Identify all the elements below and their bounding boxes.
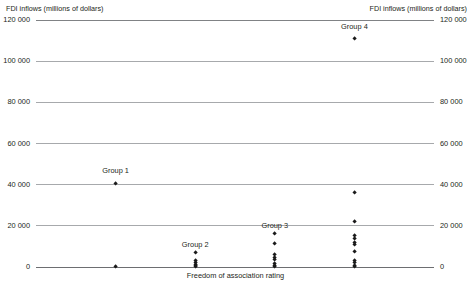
- gridline: [36, 61, 434, 62]
- y-tick-label-right: 40 000: [440, 181, 463, 189]
- y-tick-label-right: 100 000: [440, 57, 467, 65]
- y-tick-label-left: 0: [26, 263, 30, 271]
- x-axis-title: Freedom of association rating: [0, 271, 471, 280]
- data-point: [352, 243, 357, 248]
- gridline: [36, 143, 434, 144]
- data-point: [273, 242, 278, 247]
- y-tick-label-right: 0: [440, 263, 444, 271]
- series-label-1: Group 1: [102, 167, 129, 175]
- y-tick-label-right: 20 000: [440, 222, 463, 230]
- data-point: [273, 265, 278, 270]
- gridline: [36, 184, 434, 185]
- plot-area: 0020 00020 00040 00040 00060 00060 00080…: [36, 20, 434, 267]
- y-tick-label-left: 20 000: [7, 222, 30, 230]
- y-tick-label-left: 40 000: [7, 181, 30, 189]
- y-tick-label-left: 60 000: [7, 140, 30, 148]
- y-tick-label-right: 120 000: [440, 16, 467, 24]
- data-point: [352, 219, 357, 224]
- data-point: [352, 191, 357, 196]
- y-axis-title-right: FDI inflows (millions of dollars): [370, 4, 467, 13]
- series-label-2: Group 2: [182, 241, 209, 249]
- data-point: [193, 250, 198, 255]
- data-point: [113, 265, 118, 270]
- data-point: [273, 231, 278, 236]
- data-point: [113, 181, 118, 186]
- data-point: [193, 265, 198, 270]
- y-tick-label-left: 120 000: [3, 16, 30, 24]
- gridline: [36, 102, 434, 103]
- data-point: [352, 36, 357, 41]
- y-tick-label-left: 80 000: [7, 98, 30, 106]
- scatter-chart: FDI inflows (millions of dollars) FDI in…: [0, 0, 471, 285]
- y-axis-title-left: FDI inflows (millions of dollars): [6, 4, 103, 13]
- series-label-3: Group 3: [261, 222, 288, 230]
- y-tick-label-left: 100 000: [3, 57, 30, 65]
- data-point: [352, 249, 357, 254]
- gridline: [36, 267, 434, 268]
- series-label-4: Group 4: [341, 23, 368, 31]
- gridline: [36, 225, 434, 226]
- y-tick-label-right: 80 000: [440, 98, 463, 106]
- data-point: [352, 265, 357, 270]
- y-tick-label-right: 60 000: [440, 140, 463, 148]
- gridline: [36, 20, 434, 21]
